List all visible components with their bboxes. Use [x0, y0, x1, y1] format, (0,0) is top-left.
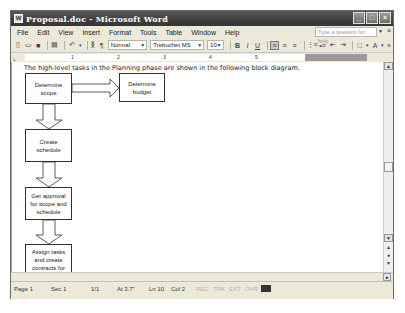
align-left-button[interactable]: ≡ — [270, 41, 278, 50]
ruler-mark: 3 — [163, 54, 166, 61]
menu-tools[interactable]: Tools — [140, 29, 156, 36]
down-arrow-icon — [35, 104, 63, 130]
status-rec[interactable]: REC — [196, 286, 209, 292]
style-select[interactable]: Normal ▼ — [108, 40, 148, 50]
close-button[interactable]: × — [379, 12, 391, 24]
toolbar-separator — [87, 41, 88, 50]
increase-indent-icon[interactable]: ⇥ — [339, 41, 347, 50]
box-line: Determine — [35, 81, 63, 89]
menu-view[interactable]: View — [58, 29, 73, 36]
box-line: for scope and — [30, 200, 66, 208]
toolbar-separator — [267, 41, 268, 50]
toolbar-options-icon[interactable]: ⁑ — [91, 41, 95, 50]
status-col: Col 2 — [171, 286, 185, 292]
spelling-status-icon[interactable] — [261, 285, 271, 292]
document-close-icon[interactable]: × — [387, 27, 391, 34]
bullets-icon[interactable]: •≡ — [319, 41, 327, 50]
help-search-input[interactable]: Type a question for help — [315, 27, 377, 37]
scroll-right-button[interactable]: ▸ — [383, 273, 391, 281]
font-color-dropdown-icon[interactable]: ▾ — [381, 41, 385, 50]
status-ovr[interactable]: OVR — [245, 286, 258, 292]
open-folder-icon[interactable]: ▭ — [24, 41, 32, 50]
align-right-button[interactable]: ≡ — [291, 41, 299, 50]
save-icon[interactable]: ■ — [34, 41, 42, 50]
font-size-select[interactable]: 10 ▼ — [207, 40, 223, 50]
menu-file[interactable]: File — [17, 29, 28, 36]
toolbar-separator — [230, 41, 231, 50]
ruler-mark: 1 — [71, 54, 74, 61]
block-determine-budget[interactable]: Determine budget — [119, 73, 165, 102]
italic-button[interactable]: I — [243, 41, 251, 50]
ruler-margin — [305, 54, 367, 61]
document-page[interactable]: The high-level tasks in the Planning pha… — [11, 62, 384, 272]
box-line: Get approval — [30, 192, 66, 200]
toolbar-separator — [64, 41, 65, 50]
maximize-button[interactable]: □ — [366, 12, 378, 24]
status-section: Sec 1 — [51, 286, 66, 292]
status-line: Ln 10 — [149, 286, 164, 292]
intro-paragraph: The high-level tasks in the Planning pha… — [24, 64, 300, 72]
styles-icon[interactable]: ¶ — [98, 41, 106, 50]
scroll-thumb[interactable] — [384, 162, 393, 172]
undo-icon[interactable]: ↶ — [68, 41, 76, 50]
minimize-button[interactable]: _ — [353, 12, 365, 24]
chevron-down-icon: ▼ — [140, 41, 145, 49]
font-value: Trebuchet MS — [153, 42, 190, 48]
align-center-button[interactable]: ≡ — [281, 41, 289, 50]
menu-table[interactable]: Table — [165, 29, 182, 36]
down-arrow-icon — [35, 162, 63, 188]
status-page-of: 1/1 — [91, 286, 99, 292]
status-bar: Page 1 Sec 1 1/1 At 3.7" Ln 10 Col 2 REC… — [11, 281, 393, 299]
border-icon[interactable]: □ — [355, 41, 363, 50]
block-get-approval[interactable]: Get approval for scope and schedule — [25, 187, 72, 220]
status-trk[interactable]: TRK — [213, 286, 225, 292]
undo-dropdown-icon[interactable]: ▾ — [78, 41, 82, 50]
underline-button[interactable]: U — [253, 41, 261, 50]
toolbar: ▯ ▭ ■ ▤ ↶ ▾ ⁑ ¶ Normal ▼ Trebuchet MS ▼ … — [11, 39, 393, 51]
block-determine-scope[interactable]: Determine scope — [25, 73, 72, 104]
tab-selector-icon[interactable]: ⌞ — [13, 54, 16, 61]
print-icon[interactable]: ▤ — [51, 41, 59, 50]
scroll-down-button[interactable]: ▼ — [384, 234, 393, 242]
title-bar[interactable]: W Proposal.doc - Microsoft Word _ □ × — [11, 11, 393, 26]
block-create-schedule[interactable]: Create schedule — [25, 129, 72, 162]
scroll-up-button[interactable]: ▲ — [384, 62, 393, 70]
style-value: Normal — [111, 42, 130, 48]
box-line: schedule — [30, 208, 66, 216]
box-line: contracts for — [32, 264, 66, 272]
word-window: W Proposal.doc - Microsoft Word _ □ × Fi… — [10, 10, 394, 299]
font-select[interactable]: Trebuchet MS ▼ — [150, 40, 204, 50]
box-line: and create — [32, 256, 66, 264]
help-dropdown-icon[interactable]: ▼ — [378, 28, 383, 34]
box-line: Create — [36, 138, 60, 146]
horizontal-ruler[interactable]: ⌞ 1 2 3 4 5 — [11, 52, 393, 61]
menu-window[interactable]: Window — [191, 29, 216, 36]
horizontal-scrollbar[interactable]: ▤ ▥ ▦ ▧ ◂ ▸ — [11, 272, 393, 281]
toolbar-overflow-icon[interactable]: » — [387, 41, 391, 50]
menu-edit[interactable]: Edit — [37, 29, 49, 36]
box-line: schedule — [36, 146, 60, 154]
new-document-icon[interactable]: ▯ — [14, 41, 22, 50]
font-color-icon[interactable]: A — [371, 41, 379, 50]
word-app-icon[interactable]: W — [14, 14, 23, 23]
numbering-icon[interactable]: ⋮≡ — [308, 41, 317, 50]
border-dropdown-icon[interactable]: ▾ — [366, 41, 370, 50]
previous-page-button[interactable]: ▲ — [384, 244, 393, 252]
menu-insert[interactable]: Insert — [82, 29, 100, 36]
decrease-indent-icon[interactable]: ⇤ — [329, 41, 337, 50]
menu-help[interactable]: Help — [225, 29, 239, 36]
box-line: Assign tasks — [32, 248, 66, 256]
bold-button[interactable]: B — [233, 41, 241, 50]
ruler-mark: 5 — [255, 54, 258, 61]
chevron-down-icon: ▼ — [217, 41, 222, 49]
ruler-track[interactable]: 1 2 3 4 5 — [25, 54, 305, 61]
vertical-scrollbar[interactable]: ▲ ▼ ▲ ● ▼ — [383, 62, 393, 272]
ruler-mark: 4 — [209, 54, 212, 61]
select-browse-object-button[interactable]: ● — [384, 252, 393, 260]
next-page-button[interactable]: ▼ — [384, 260, 393, 268]
down-arrow-icon — [35, 220, 63, 245]
menu-format[interactable]: Format — [109, 29, 131, 36]
right-arrow-icon — [72, 78, 120, 98]
status-ext[interactable]: EXT — [229, 286, 241, 292]
menu-bar: File Edit View Insert Format Tools Table… — [11, 26, 393, 39]
